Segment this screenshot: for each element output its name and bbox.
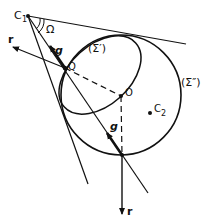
point-q xyxy=(63,66,67,70)
label-r-bottom: r xyxy=(127,205,133,218)
ellipse-sigma-prime xyxy=(44,21,155,130)
dashed-o-bottom xyxy=(121,96,122,155)
label-sigma-prime: (Σ′) xyxy=(88,42,106,55)
angle-omega-arc xyxy=(36,18,40,29)
point-c2 xyxy=(148,111,152,115)
label-c2-sub: 2 xyxy=(161,109,166,118)
vector-g-bottom xyxy=(107,133,122,155)
label-r-left: r xyxy=(8,33,14,46)
point-bottom xyxy=(120,153,124,157)
label-o: O xyxy=(125,87,133,98)
label-c1-sub: 1 xyxy=(22,15,27,24)
label-g-top: g xyxy=(55,44,63,57)
label-omega: Ω xyxy=(46,23,54,36)
label-sigma-double-prime: (Σ″) xyxy=(181,76,201,89)
point-o xyxy=(119,94,123,98)
geometry-diagram: C 1 Ω g Q (Σ′) (Σ″) O C 2 g r r xyxy=(0,0,213,223)
label-q: Q xyxy=(68,61,76,72)
label-c1: C xyxy=(14,9,22,22)
label-c2: C xyxy=(154,103,161,114)
label-g-bottom: g xyxy=(110,120,118,133)
tangent-line-left xyxy=(28,16,88,184)
